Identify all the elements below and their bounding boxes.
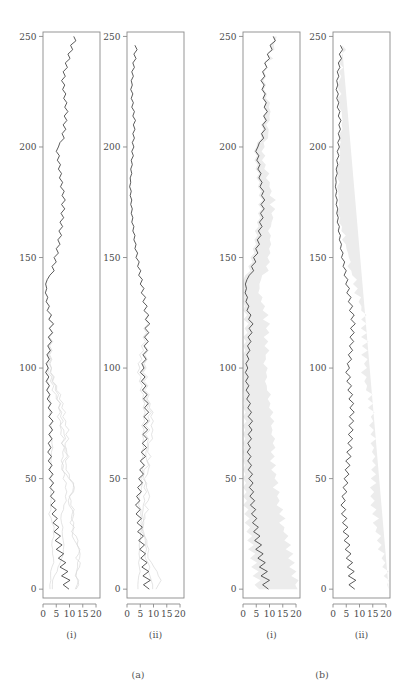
x-tick-label: 0 [330,609,336,619]
y-tick-label: 150 [219,253,236,263]
y-tick-label: 200 [309,142,326,152]
x-tick-label: 15 [367,609,379,619]
y-tick-label: 150 [19,253,36,263]
y-tick-label: 100 [309,363,326,373]
y-tick-label: 200 [19,142,36,152]
y-tick-label: 200 [219,142,236,152]
x-tick-label: 5 [53,609,59,619]
x-tick-label: 15 [77,609,89,619]
y-tick-label: 250 [309,32,326,42]
x-tick-label: 20 [290,609,302,619]
y-tick-label: 0 [31,584,37,594]
x-tick-label: 20 [174,609,186,619]
figure-canvas: 05010015020025005101520(i)05010015020025… [0,0,409,694]
y-tick-label: 100 [103,363,120,373]
x-tick-label: 10 [264,609,276,619]
y-tick-label: 150 [103,253,120,263]
figure-root: 05010015020025005101520(i)05010015020025… [0,0,409,694]
panel-caption-label: (ii) [355,629,369,640]
y-tick-label: 0 [231,584,237,594]
x-tick-label: 20 [90,609,102,619]
x-tick-label: 20 [380,609,392,619]
x-tick-label: 10 [148,609,160,619]
group-caption-group-a: (a) [131,669,144,680]
y-tick-label: 50 [25,474,37,484]
x-tick-label: 0 [124,609,130,619]
panel-caption-label: (i) [66,629,76,640]
y-tick-label: 200 [103,142,120,152]
y-tick-label: 250 [219,32,236,42]
y-tick-label: 150 [309,253,326,263]
group-caption-group-b: (b) [315,669,329,680]
y-tick-label: 250 [19,32,36,42]
x-tick-label: 5 [343,609,349,619]
x-tick-label: 15 [161,609,173,619]
x-tick-label: 10 [354,609,366,619]
panel-caption-label: (i) [266,629,276,640]
x-tick-label: 0 [240,609,246,619]
x-tick-label: 10 [64,609,76,619]
y-tick-label: 50 [315,474,327,484]
y-tick-label: 0 [321,584,327,594]
y-tick-label: 50 [109,474,121,484]
x-tick-label: 0 [40,609,46,619]
figure-background [0,0,409,694]
y-tick-label: 100 [219,363,236,373]
y-tick-label: 250 [103,32,120,42]
x-tick-label: 5 [137,609,143,619]
panel-caption-label: (ii) [149,629,163,640]
x-tick-label: 15 [277,609,289,619]
y-tick-label: 50 [225,474,237,484]
x-tick-label: 5 [253,609,259,619]
y-tick-label: 0 [115,584,121,594]
y-tick-label: 100 [19,363,36,373]
